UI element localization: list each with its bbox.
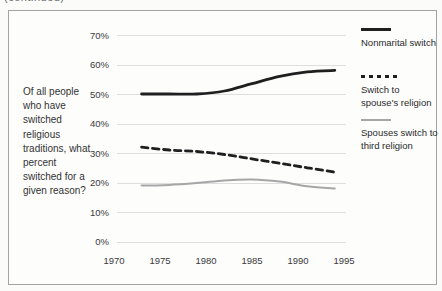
x-tick-label: 1995 — [324, 255, 364, 266]
series-line — [142, 70, 335, 94]
y-tick-label: 60% — [65, 59, 109, 70]
chart-panel: Of all people who have switched religiou… — [8, 10, 437, 285]
legend-item: Spouses switch to third religion — [361, 119, 439, 152]
y-tick-label: 10% — [65, 207, 109, 218]
legend: Nonmarital switchSwitch to spouse's reli… — [361, 11, 439, 284]
x-tick-label: 1975 — [140, 255, 180, 266]
plot-lines — [117, 35, 346, 242]
y-tick-label: 30% — [65, 148, 109, 159]
legend-item: Switch to spouse's religion — [361, 75, 439, 109]
legend-label: Spouses switch to third religion — [361, 127, 439, 152]
y-tick-label: 40% — [65, 118, 109, 129]
y-tick-label: 50% — [65, 89, 109, 100]
page: (continued) Of all people who have switc… — [0, 0, 442, 291]
x-tick-label: 1970 — [94, 255, 134, 266]
series-line — [142, 179, 335, 188]
y-tick-label: 20% — [65, 177, 109, 188]
legend-line-sample — [361, 75, 397, 78]
series-line — [142, 147, 335, 172]
x-tick-label: 1990 — [278, 255, 318, 266]
y-tick-label: 70% — [65, 30, 109, 41]
legend-line-sample — [361, 119, 391, 121]
legend-item: Nonmarital switch — [361, 28, 439, 50]
y-tick-label: 0% — [65, 236, 109, 247]
x-tick-label: 1985 — [232, 255, 272, 266]
legend-label: Nonmarital switch — [361, 37, 439, 50]
top-note-text: (continued) — [4, 0, 65, 3]
legend-label: Switch to spouse's religion — [361, 84, 439, 109]
legend-line-sample — [361, 28, 391, 31]
top-note: (continued) — [0, 0, 120, 5]
x-tick-label: 1980 — [186, 255, 226, 266]
